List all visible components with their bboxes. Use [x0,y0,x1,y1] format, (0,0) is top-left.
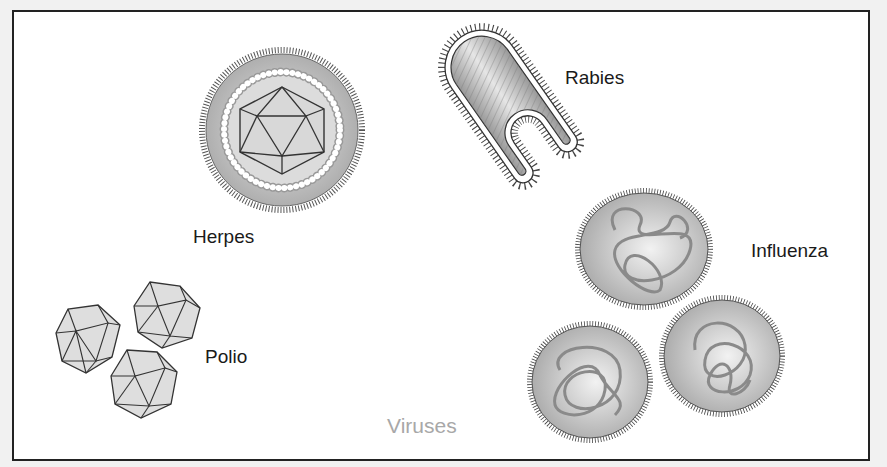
influenza-label: Influenza [751,240,828,262]
polio-particle-2 [134,282,200,348]
influenza-particle-2 [530,324,650,440]
herpes-virus-icon [202,50,362,210]
rabies-virus-icon [431,16,582,187]
virus-illustrations [0,0,887,467]
herpes-label: Herpes [193,226,254,248]
polio-virus-icon [56,282,200,418]
influenza-particle-3 [662,298,782,414]
polio-particle-3 [111,350,177,418]
influenza-virus-icon [530,191,782,440]
rabies-label: Rabies [565,67,624,89]
polio-particle-1 [56,305,120,373]
influenza-particle-1 [578,191,710,307]
diagram-caption: Viruses [387,414,457,438]
polio-label: Polio [205,346,247,368]
